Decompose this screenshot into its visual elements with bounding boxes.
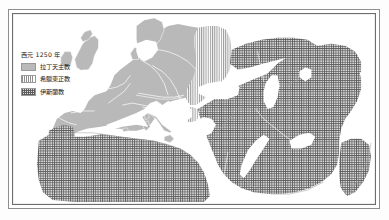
map-legend: 西元 1250 年 拉丁天主教 希臘東正教 伊斯蘭教 [21, 52, 93, 100]
legend-item-latin-catholic: 拉丁天主教 [21, 63, 93, 71]
legend-swatch-vertical-stripes-icon [21, 75, 36, 83]
legend-swatch-solid-icon [21, 63, 36, 71]
legend-label-greek-orthodox: 希臘東正教 [40, 76, 70, 82]
map-figure: 西元 1250 年 拉丁天主教 希臘東正教 伊斯蘭教 [0, 0, 389, 220]
legend-title: 西元 1250 年 [21, 52, 93, 58]
legend-item-islam: 伊斯蘭教 [21, 88, 93, 96]
legend-item-greek-orthodox: 希臘東正教 [21, 75, 93, 83]
legend-swatch-cross-hatch-icon [21, 88, 36, 96]
legend-label-islam: 伊斯蘭教 [40, 89, 64, 95]
map-canvas [13, 14, 375, 204]
figure-inner-frame: 西元 1250 年 拉丁天主教 希臘東正教 伊斯蘭教 [12, 13, 376, 205]
legend-label-latin-catholic: 拉丁天主教 [40, 64, 70, 70]
